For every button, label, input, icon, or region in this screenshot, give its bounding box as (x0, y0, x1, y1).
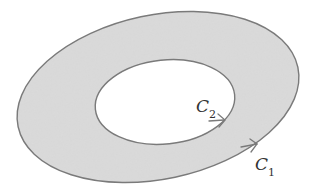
label-c2: C (196, 96, 209, 116)
annulus-diagram: C 2 C 1 (0, 0, 323, 187)
label-c1-subscript: 1 (268, 166, 275, 179)
label-c2-subscript: 2 (209, 108, 216, 121)
label-c1: C (255, 154, 268, 174)
